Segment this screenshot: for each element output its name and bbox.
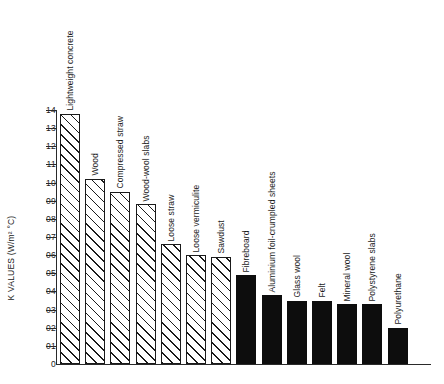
bar: Loose straw — [161, 244, 181, 364]
bar: Wood-wool slabs — [136, 204, 156, 364]
y-tick-mark — [46, 328, 56, 329]
bar-label: Compressed straw — [116, 116, 125, 188]
bar-label: Sawdust — [217, 221, 226, 254]
y-tick-mark — [46, 110, 56, 111]
y-tick-mark — [46, 183, 56, 184]
bar: Felt — [312, 301, 332, 365]
bar-label: Polyurethane — [393, 273, 402, 324]
bar-label: Lightweight concrete — [66, 31, 75, 111]
bar-chart: K VALUES (W/m² °C) 001020304050607080910… — [0, 0, 444, 384]
y-tick-label: 0 — [16, 359, 56, 369]
y-tick-mark — [46, 201, 56, 202]
bar: Mineral wool — [337, 304, 357, 364]
y-tick-mark — [46, 273, 56, 274]
y-axis-title: K VALUES (W/m² °C) — [6, 178, 16, 338]
y-tick-mark — [46, 310, 56, 311]
bar-label: Loose vermiculite — [192, 184, 201, 252]
bar: Sawdust — [211, 257, 231, 364]
y-tick-mark — [46, 128, 56, 129]
bar: Aluminium foil-crumpled sheets — [262, 295, 282, 364]
bar-label: Mineral wool — [343, 252, 352, 301]
bar-label: Loose straw — [167, 194, 176, 241]
bar-label: Polystyrene slabs — [368, 233, 377, 301]
y-tick-mark — [46, 219, 56, 220]
bar-label: Felt — [318, 283, 327, 298]
bar: Wood — [85, 179, 105, 364]
bar-label: Wood — [91, 154, 100, 176]
bar: Loose vermiculite — [186, 255, 206, 364]
bar: Polyurethane — [388, 328, 408, 364]
x-axis-line — [56, 364, 431, 365]
y-tick-mark — [46, 291, 56, 292]
bar-label: Glass wool — [293, 255, 302, 298]
y-tick-mark — [46, 237, 56, 238]
y-tick-mark — [46, 164, 56, 165]
bar-label: Wood-wool slabs — [141, 135, 150, 201]
bar: Fibreboard — [236, 275, 256, 364]
bar: Compressed straw — [110, 192, 130, 364]
plot-area: Lightweight concreteWoodCompressed straw… — [57, 110, 431, 364]
bar-label: Fibreboard — [242, 230, 251, 272]
y-tick-mark — [46, 146, 56, 147]
y-tick-mark — [46, 346, 56, 347]
bar-label: Aluminium foil-crumpled sheets — [267, 171, 276, 292]
bar: Glass wool — [287, 301, 307, 365]
bar: Polystyrene slabs — [362, 304, 382, 364]
y-tick-mark — [46, 255, 56, 256]
bar: Lightweight concrete — [60, 114, 80, 364]
